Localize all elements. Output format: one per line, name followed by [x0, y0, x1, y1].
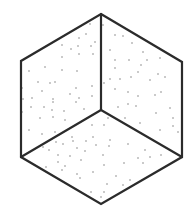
stipple-dot: [78, 53, 80, 55]
edge-center-lower-right: [101, 110, 182, 157]
stipple-dot: [61, 169, 63, 171]
stipple-dot: [137, 71, 139, 73]
stipple-dot: [106, 183, 108, 185]
stipple-dot: [154, 94, 156, 96]
stipple-dot: [130, 76, 132, 78]
stipple-dot: [172, 117, 174, 119]
cube-diagram: [0, 0, 192, 215]
stipple-dot: [100, 196, 102, 198]
stipple-dot: [137, 157, 139, 159]
stipple-dot: [159, 129, 161, 131]
stipple-dot: [124, 117, 126, 119]
stipple-dot: [127, 143, 129, 145]
stipple-dot: [109, 78, 111, 80]
stipple-dot: [41, 90, 43, 92]
stipple-dot: [160, 154, 162, 156]
stipple-dot: [75, 87, 77, 89]
stipple-dot: [149, 79, 151, 81]
stipple-dot: [92, 136, 94, 138]
stipple-dot: [169, 107, 171, 109]
stipple-dot: [159, 57, 161, 59]
stipple-dot: [63, 110, 65, 112]
stipple-dot: [139, 122, 141, 124]
stipple-dot: [71, 136, 73, 138]
stipple-dot: [44, 66, 46, 68]
stipple-dot: [61, 44, 63, 46]
stipple-dot: [78, 37, 80, 39]
stipple-dot: [155, 112, 157, 114]
stipple-dot: [177, 131, 179, 133]
stipple-dot: [77, 45, 79, 47]
stipple-dot: [109, 139, 111, 141]
stipple-dot: [149, 156, 151, 158]
stipple-dot: [45, 166, 47, 168]
stipple-dot: [76, 70, 78, 72]
stipple-dot: [69, 155, 71, 157]
stipple-dot: [64, 119, 66, 121]
stipple-dot: [85, 140, 87, 142]
stipple-dot: [95, 144, 97, 146]
stipple-dot: [41, 133, 43, 135]
stipple-dot: [78, 97, 80, 99]
stipple-dot: [123, 162, 125, 164]
cube-edges: [21, 14, 182, 204]
stipple-dot: [90, 45, 92, 47]
stipple-dot: [70, 48, 72, 50]
stipple-dot: [92, 53, 94, 55]
stipple-dot: [160, 91, 162, 93]
stipple-dot: [31, 97, 33, 99]
stipple-dot: [42, 146, 44, 148]
stipple-dot: [142, 162, 144, 164]
stipple-dot: [76, 147, 78, 149]
isometric-cube-figure: [0, 0, 192, 215]
stipple-dot: [142, 51, 144, 53]
stipple-dot: [80, 159, 82, 161]
stipple-dot: [119, 78, 121, 80]
stipple-dot: [108, 145, 110, 147]
stipple-dot: [75, 101, 77, 103]
stipple-dot: [144, 149, 146, 151]
stipple-dot: [114, 67, 116, 69]
stipple-dot: [62, 143, 64, 145]
stipple-dot: [49, 82, 51, 84]
stipple-dot: [90, 191, 92, 193]
stipple-dot: [22, 98, 24, 100]
stipple-dot: [28, 129, 30, 131]
stipple-dot: [64, 165, 66, 167]
stipple-dot: [114, 88, 116, 90]
stipple-dot: [129, 179, 131, 181]
stipple-dot: [57, 161, 59, 163]
stipple-dot: [48, 149, 50, 151]
stipple-dot: [103, 82, 105, 84]
stipple-dot: [127, 91, 129, 93]
bottom-face-stipple: [42, 117, 162, 198]
stipple-dot: [61, 56, 63, 58]
stipple-dot: [28, 70, 30, 72]
stipple-dot: [131, 42, 133, 44]
stipple-dot: [54, 131, 56, 133]
stipple-dot: [172, 125, 174, 127]
stipple-dot: [30, 106, 32, 108]
stipple-dot: [83, 108, 85, 110]
stipple-dot: [72, 140, 74, 142]
stipple-dot: [103, 124, 105, 126]
stipple-dot: [52, 98, 54, 100]
stipple-dot: [91, 95, 93, 97]
stipple-dot: [52, 101, 54, 103]
stipple-dot: [103, 164, 105, 166]
stipple-dot: [135, 105, 137, 107]
stipple-dot: [122, 35, 124, 37]
stipple-dot: [89, 23, 91, 25]
stipple-dot: [114, 34, 116, 36]
stipple-dot: [157, 73, 159, 75]
edge-center-lower-left: [21, 110, 101, 157]
stipple-dot: [92, 171, 94, 173]
stipple-dot: [137, 95, 139, 97]
stipple-dot: [107, 117, 109, 119]
stipple-dot: [94, 41, 96, 43]
stipple-dot: [84, 150, 86, 152]
stipple-dot: [122, 184, 124, 186]
stipple-dot: [114, 59, 116, 61]
stipple-dot: [37, 81, 39, 83]
stipple-dot: [127, 103, 129, 105]
